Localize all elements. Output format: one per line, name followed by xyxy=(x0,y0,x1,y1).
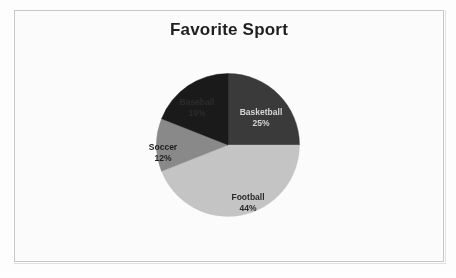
pie-slice-basketball xyxy=(228,74,300,146)
pie-slice-group xyxy=(156,74,299,217)
chart-page: Favorite Sport Basketball 25% Football 4… xyxy=(0,0,456,278)
chart-title: Favorite Sport xyxy=(14,20,444,40)
pie-chart xyxy=(156,73,300,217)
pie-chart-svg xyxy=(156,73,300,217)
